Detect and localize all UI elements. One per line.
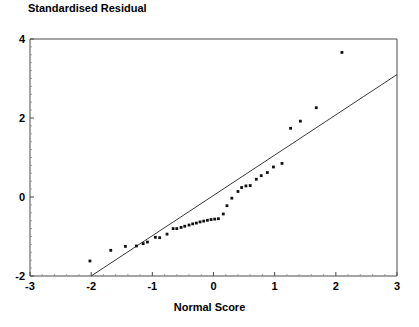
data-point <box>260 174 263 177</box>
data-point <box>172 227 175 230</box>
x-tick-label: 3 <box>394 280 400 292</box>
data-point <box>146 241 149 244</box>
x-tick-label: -1 <box>147 280 157 292</box>
data-point <box>226 204 229 207</box>
x-tick-label: 0 <box>210 280 216 292</box>
data-point <box>222 213 225 216</box>
data-point <box>299 120 302 123</box>
x-tick-label: -3 <box>25 280 35 292</box>
data-point <box>142 242 145 245</box>
data-point <box>213 218 216 221</box>
chart-canvas: -3-2-10123 -2024 <box>0 0 419 327</box>
data-point <box>199 220 202 223</box>
data-point <box>272 166 275 169</box>
data-point <box>89 260 92 263</box>
y-tick-label: 4 <box>19 33 26 45</box>
data-point <box>217 217 220 220</box>
data-point <box>175 227 178 230</box>
data-point <box>266 171 269 174</box>
data-point <box>249 184 252 187</box>
scatter-points <box>89 51 344 262</box>
x-tick-label: 2 <box>333 280 339 292</box>
data-point <box>166 233 169 236</box>
data-point <box>191 222 194 225</box>
data-point <box>240 186 243 189</box>
data-point <box>202 220 205 223</box>
data-point <box>341 51 344 54</box>
data-point <box>289 127 292 130</box>
data-point <box>109 249 112 252</box>
y-tick-label: 0 <box>19 191 25 203</box>
data-point <box>281 162 284 165</box>
data-point <box>188 224 191 227</box>
y-tick-label: -2 <box>15 270 25 282</box>
data-point <box>183 225 186 228</box>
data-point <box>210 218 213 221</box>
data-point <box>315 106 318 109</box>
y-tick-labels: -2024 <box>15 33 26 282</box>
x-tick-label: 1 <box>272 280 278 292</box>
x-tick-label: -2 <box>86 280 96 292</box>
data-point <box>237 190 240 193</box>
data-point <box>180 226 183 229</box>
x-axis-ticks <box>30 272 397 276</box>
data-point <box>124 245 127 248</box>
data-point <box>206 219 209 222</box>
data-point <box>158 236 161 239</box>
data-point <box>230 197 233 200</box>
data-point <box>245 185 248 188</box>
x-tick-labels: -3-2-10123 <box>25 280 400 292</box>
data-point <box>195 222 198 225</box>
normal-probability-plot: Standardised Residual Normal Score -3-2-… <box>0 0 419 327</box>
plot-frame <box>30 39 397 276</box>
y-tick-label: 2 <box>19 112 25 124</box>
data-point <box>135 245 138 248</box>
data-point <box>255 178 258 181</box>
data-point <box>154 236 157 239</box>
